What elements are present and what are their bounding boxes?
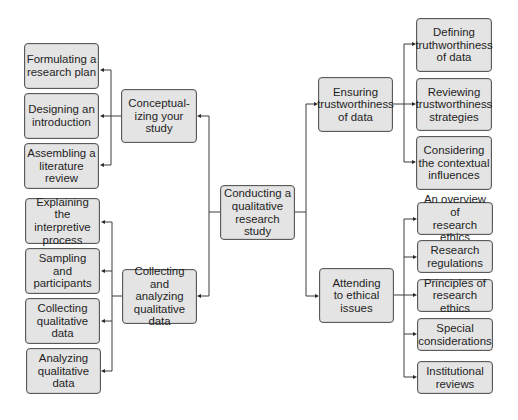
node-principles-ethics: Principles of research ethics <box>417 279 493 312</box>
concept-map: Conducting a qualitative research study … <box>0 0 518 420</box>
node-formulating-plan: Formulating a research plan <box>24 43 99 89</box>
node-designing-introduction: Designing an introduction <box>24 93 99 139</box>
node-ensuring-trustworthiness: Ensuring trustworthiness of data <box>318 77 393 132</box>
node-special-considerations: Special considerations <box>417 318 493 351</box>
node-collecting-analyzing: Collecting and analyzing qualitative dat… <box>122 269 197 324</box>
node-sampling-participants: Sampling and participants <box>25 248 100 294</box>
node-defining-truthworthiness: Defining truthworthiness of data <box>416 18 492 72</box>
node-reviewing-strategies: Reviewing trustworthiness strategies <box>416 78 492 131</box>
root-node: Conducting a qualitative research study <box>220 185 295 240</box>
node-analyzing-data: Analyzing qualitative data <box>26 348 101 394</box>
node-collecting-data: Collecting qualitative data <box>25 298 100 344</box>
node-research-regulations: Research regulations <box>417 240 493 273</box>
node-explaining-process: Explaining the interpretive process <box>25 198 100 244</box>
node-conceptualizing: Conceptual- izing your study <box>121 89 197 143</box>
node-overview-ethics: An overview of research ethics <box>417 202 493 235</box>
node-attending-ethics: Attending to ethical issues <box>319 268 394 323</box>
node-considering-influences: Considering the contextual influences <box>416 136 492 190</box>
node-institutional-reviews: Institutional reviews <box>417 361 493 394</box>
node-assembling-literature: Assembling a literature review <box>24 143 99 189</box>
